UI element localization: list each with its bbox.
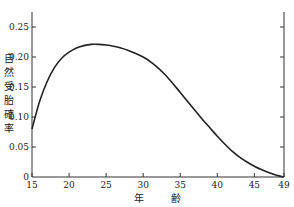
x-tick-label: 15 — [26, 180, 38, 190]
x-axis-ticks: 1520253035404549 — [26, 173, 290, 190]
axes — [32, 12, 284, 177]
x-axis-label-part-1: 年 — [134, 192, 144, 204]
y-axis-label-char: 率 — [4, 122, 14, 134]
x-tick-label: 49 — [278, 180, 290, 190]
x-tick-label: 35 — [175, 180, 187, 190]
x-tick-label: 25 — [100, 180, 112, 190]
x-axis-label-part-2: 齢 — [171, 192, 181, 204]
fertility-rate-chart: 00.050.100.150.200.25 1520253035404549 自… — [0, 0, 294, 207]
y-axis-ticks: 00.050.100.150.200.25 — [9, 22, 284, 182]
y-tick-label: 0.25 — [9, 22, 29, 32]
y-axis-label-char: 然 — [4, 66, 14, 78]
x-tick-label: 40 — [212, 180, 224, 190]
x-tick-label: 20 — [63, 180, 75, 190]
y-axis-label-char: 胎 — [4, 94, 14, 106]
y-axis-label-char: 自 — [4, 52, 14, 64]
x-tick-label: 30 — [137, 180, 149, 190]
y-axis-label-char: 受 — [4, 81, 14, 92]
fertility-curve — [32, 44, 284, 177]
x-tick-label: 45 — [249, 180, 261, 190]
y-axis-label-char: 確 — [4, 108, 14, 120]
y-tick-label: 0.05 — [9, 142, 29, 152]
